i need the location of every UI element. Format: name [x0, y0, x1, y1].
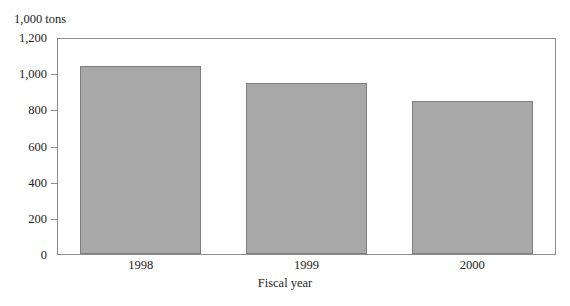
y-axis-tick-label: 1,200 — [0, 32, 47, 44]
y-axis-tick-label-group: 02004006008001,0001,200 — [0, 38, 47, 255]
y-axis-tick-label: 1,000 — [0, 68, 47, 80]
x-axis-title: Fiscal year — [0, 276, 570, 291]
bar-series-group — [58, 39, 555, 254]
cropped-caption-remnant — [0, 0, 570, 8]
y-axis-tick-label: 200 — [0, 213, 47, 225]
bar-2000 — [412, 101, 533, 254]
y-axis-tick-label: 0 — [0, 249, 47, 261]
y-axis-unit-label: 1,000 tons — [14, 12, 66, 26]
x-axis-tick-label-group: 199819992000 — [58, 258, 555, 274]
x-axis-tick-label: 2000 — [389, 258, 555, 273]
y-axis-tick-label: 800 — [0, 104, 47, 116]
x-axis-tick-label: 1999 — [224, 258, 390, 273]
x-axis-tick-label: 1998 — [58, 258, 224, 273]
y-axis-tick-label: 400 — [0, 177, 47, 189]
bar-1998 — [80, 66, 201, 254]
y-axis-tick-label: 600 — [0, 141, 47, 153]
bar-1999 — [246, 83, 367, 254]
